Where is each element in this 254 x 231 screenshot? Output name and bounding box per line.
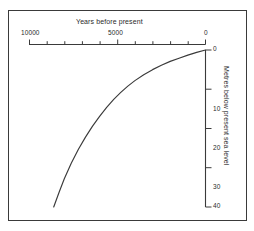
figure-container: Years before present 10000 5000 0 0 10 2… (0, 0, 254, 231)
x-tick-label-5000: 5000 (108, 30, 123, 37)
sea-level-curve (54, 50, 206, 207)
y-tick-label-10: 10 (213, 106, 220, 113)
x-axis-ticks (30, 40, 206, 45)
y-axis-ticks (206, 50, 212, 207)
x-tick-label-0: 0 (204, 30, 208, 37)
x-tick-label-10000: 10000 (21, 30, 40, 37)
y-tick-label-30: 30 (213, 184, 220, 191)
x-axis-title: Years before present (76, 18, 143, 25)
y-tick-label-0: 0 (213, 46, 217, 53)
y-tick-label-20: 20 (213, 145, 220, 152)
y-tick-label-40: 40 (213, 203, 220, 210)
y-axis-title: Metres below present sea level (223, 66, 230, 76)
